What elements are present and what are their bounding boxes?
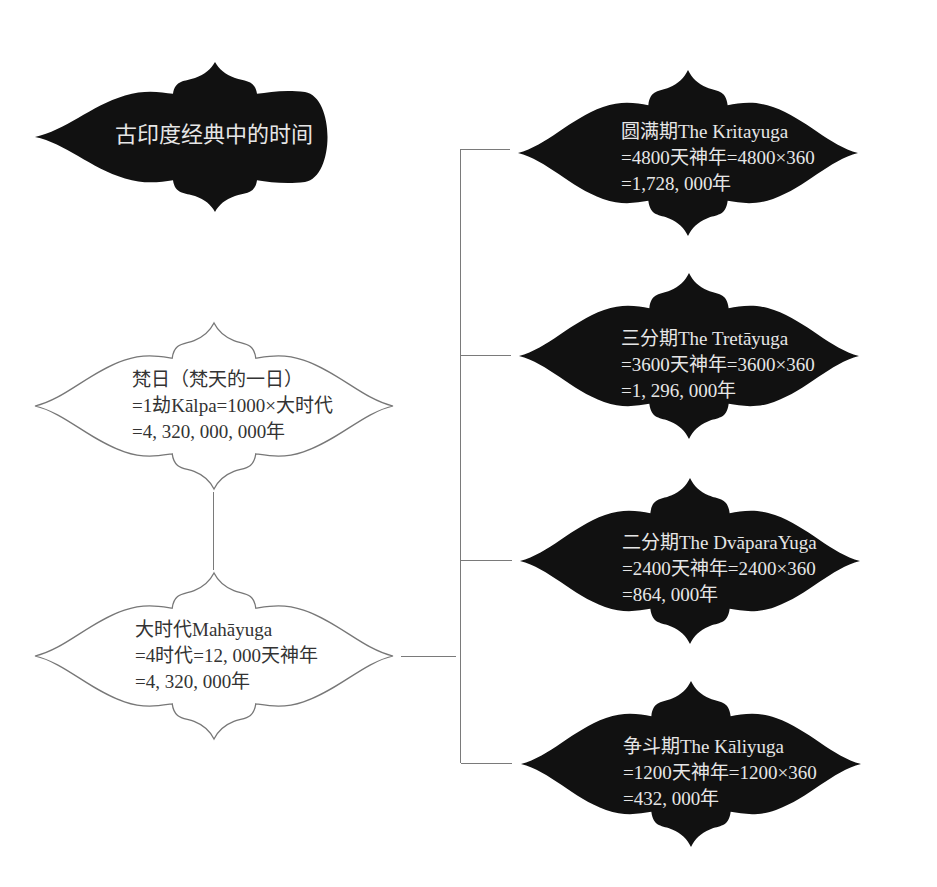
node-line: =3600天神年=3600×360	[621, 352, 815, 378]
node-line: =4时代=12, 000天神年	[135, 643, 318, 669]
node-line: =2400天神年=2400×360	[622, 556, 817, 582]
node-line: 争斗期The Kāliyuga	[623, 734, 817, 760]
node-line: =1劫Kālpa=1000×大时代	[132, 393, 333, 419]
bracket-tick-tretayuga	[460, 355, 511, 356]
node-line: =4, 320, 000年	[135, 669, 318, 695]
node-line: =4800天神年=4800×360	[621, 145, 815, 171]
node-line: =4, 320, 000, 000年	[132, 419, 333, 445]
node-kaliyuga: 争斗期The Kāliyuga =1200天神年=1200×360 =432, …	[521, 681, 861, 847]
node-line: =1, 296, 000年	[621, 378, 815, 404]
node-dvaparayuga: 二分期The DvāparaYuga =2400天神年=2400×360 =86…	[520, 478, 860, 644]
node-line: =864, 000年	[622, 582, 817, 608]
node-brahma-day: 梵日（梵天的一日） =1劫Kālpa=1000×大时代 =4, 320, 000…	[35, 323, 393, 489]
title-node: 古印度经典中的时间	[35, 62, 335, 212]
node-tretayuga: 三分期The Tretāyuga =3600天神年=3600×360 =1, 2…	[519, 273, 859, 439]
title-label: 古印度经典中的时间	[115, 122, 313, 148]
bracket-tick-kaliyuga	[461, 763, 512, 764]
node-line: 三分期The Tretāyuga	[621, 326, 815, 352]
node-line: =1,728, 000年	[621, 171, 815, 197]
bracket-tick-kritayuga	[460, 149, 510, 150]
node-mahayuga: 大时代Mahāyuga =4时代=12, 000天神年 =4, 320, 000…	[35, 573, 393, 739]
bracket-tick-dvaparayuga	[461, 560, 512, 561]
node-line: =1200天神年=1200×360	[623, 760, 817, 786]
connector-horizontal-mahayuga	[401, 656, 456, 657]
bracket-vertical	[460, 149, 461, 763]
node-line: 梵日（梵天的一日）	[132, 367, 333, 393]
node-line: 二分期The DvāparaYuga	[622, 530, 817, 556]
node-line: 大时代Mahāyuga	[135, 617, 318, 643]
node-line: =432, 000年	[623, 786, 817, 812]
node-kritayuga: 圆满期The Kritayuga =4800天神年=4800×360 =1,72…	[518, 70, 858, 236]
connector-vertical-left	[213, 492, 214, 570]
diagram-canvas: 古印度经典中的时间 梵日（梵天的一日） =1劫Kālpa=1000×大时代 =4…	[0, 0, 937, 887]
node-line: 圆满期The Kritayuga	[621, 119, 815, 145]
